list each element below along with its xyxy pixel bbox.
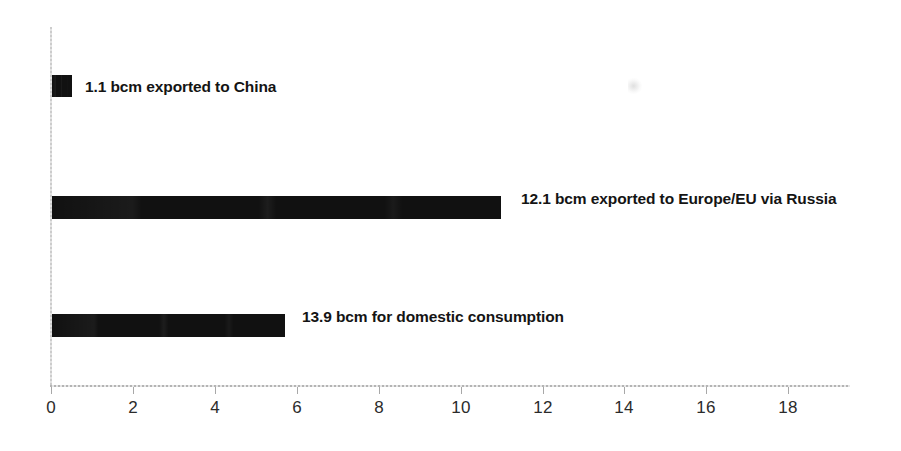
x-tick-label: 14: [604, 398, 644, 418]
bar-data-label: 13.9 bcm for domestic consumption: [302, 308, 564, 326]
x-tick-mark: [461, 387, 462, 394]
x-tick-label: 12: [523, 398, 563, 418]
x-tick-mark: [624, 387, 625, 394]
x-tick-mark: [379, 387, 380, 394]
x-tick-label: 6: [277, 398, 317, 418]
x-tick-label: 18: [768, 398, 808, 418]
x-tick-label: 2: [113, 398, 153, 418]
x-tick-mark: [788, 387, 789, 394]
x-tick-label: 4: [195, 398, 235, 418]
bar: [52, 196, 501, 219]
bar-data-label: 1.1 bcm exported to China: [85, 78, 276, 96]
x-tick-mark: [543, 387, 544, 394]
scan-artifact: [628, 78, 642, 94]
x-tick-mark: [133, 387, 134, 394]
x-tick-label: 10: [441, 398, 481, 418]
bar-data-label: 12.1 bcm exported to Europe/EU via Russi…: [521, 190, 836, 208]
bar: [52, 75, 72, 97]
x-tick-label: 0: [31, 398, 71, 418]
bar-chart: 024681012141618 1.1 bcm exported to Chin…: [0, 0, 901, 451]
x-tick-mark: [215, 387, 216, 394]
x-tick-label: 8: [359, 398, 399, 418]
x-tick-mark: [51, 387, 52, 394]
x-tick-mark: [297, 387, 298, 394]
x-axis-line: [50, 385, 850, 387]
x-tick-mark: [706, 387, 707, 394]
x-tick-label: 16: [686, 398, 726, 418]
bar: [52, 314, 285, 337]
